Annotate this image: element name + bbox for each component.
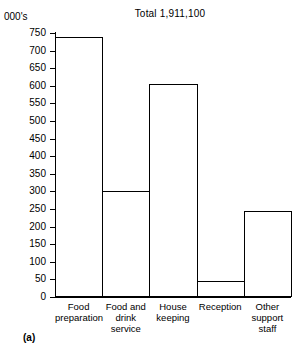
x-axis-label-line: drink (102, 312, 149, 323)
bar (244, 211, 292, 297)
y-tick-label: 300 (0, 186, 46, 196)
y-tick-label: 200 (0, 222, 46, 232)
y-tick-label: 400 (0, 151, 46, 161)
x-axis-label: Othersupportstaff (244, 301, 291, 334)
y-tick-label: 250 (0, 204, 46, 214)
bar-chart-figure: Total 1,911,100 000's 050100150200250300… (0, 0, 305, 353)
x-axis-label-line: Food (55, 301, 102, 312)
y-axis-unit-label: 000's (4, 11, 28, 22)
x-axis-label-line: staff (244, 323, 291, 334)
y-tick-label: 700 (0, 46, 46, 56)
x-axis-label-line: preparation (55, 312, 102, 323)
y-tick-label: 550 (0, 98, 46, 108)
y-tick-label: 600 (0, 81, 46, 91)
chart-title: Total 1,911,100 (95, 8, 245, 19)
x-axis-label: Food anddrinkservice (102, 301, 149, 334)
y-tick-label: 500 (0, 116, 46, 126)
x-axis-label: Foodpreparation (55, 301, 102, 323)
bar (149, 84, 197, 297)
y-tick-label: 350 (0, 169, 46, 179)
y-tick-label: 150 (0, 239, 46, 249)
x-axis-labels: FoodpreparationFood anddrinkserviceHouse… (55, 301, 291, 341)
y-tick-label: 650 (0, 63, 46, 73)
x-axis-line (55, 297, 291, 298)
x-axis-label-line: keeping (149, 312, 196, 323)
y-tick-label: 0 (0, 292, 46, 302)
x-axis-label: Reception (197, 301, 244, 312)
bar (55, 37, 103, 297)
x-axis-label-line: service (102, 323, 149, 334)
figure-caption: (a) (23, 332, 35, 343)
y-tick-label: 50 (0, 274, 46, 284)
x-axis-label-line: support (244, 312, 291, 323)
y-tick-label: 750 (0, 28, 46, 38)
x-axis-label-line: House (149, 301, 196, 312)
x-axis-label: Housekeeping (149, 301, 196, 323)
bar (197, 281, 245, 297)
y-tick-label: 100 (0, 257, 46, 267)
x-axis-label-line: Other (244, 301, 291, 312)
plot-area (55, 33, 291, 297)
x-axis-label-line: Food and (102, 301, 149, 312)
x-axis-label-line: Reception (197, 301, 244, 312)
y-tick-label: 450 (0, 134, 46, 144)
bar (102, 191, 150, 297)
